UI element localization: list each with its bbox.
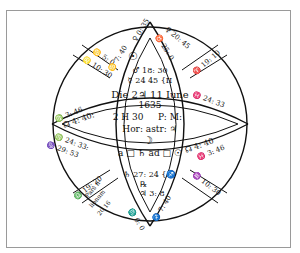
band-mid-right-upper: ♓ 24: 33 [191, 89, 226, 109]
center-year: 1635 [139, 100, 162, 110]
band-top-vesica-cusp: ♀ 0: 35 [131, 17, 151, 43]
saturn-position: ♄ 27: 24 {♐ [124, 169, 177, 179]
sun-icon: ☉ [128, 50, 138, 63]
center-aspect-line: a □ ♄ ad □ ☉ [118, 148, 182, 158]
center-planetary-hour: Hor: astr: ♃ [122, 124, 177, 134]
horoscope-diagram: Die 2♃ 11 Iune 1635 2 H 30 P: M: Hor: as… [0, 0, 300, 253]
jupiter-position: ♃ 3: 8 [139, 189, 164, 198]
band-bottom-right-diag: ♒ 10: 30 [191, 169, 223, 197]
center-ampm: P: M: [158, 112, 182, 122]
band-top-right-diag: ♈ 19: 10 [191, 48, 223, 77]
mercury-position: ☿ 24 45 {II [128, 76, 172, 85]
center-hour: 2 H 30 [113, 112, 144, 122]
center-date-line: Die 2♃ 11 Iune [111, 89, 189, 100]
mars-position: ♂ 18: 30 [132, 66, 167, 75]
retrograde-marker: ℞ [140, 180, 147, 189]
moon-icon: ☽ [143, 134, 153, 147]
